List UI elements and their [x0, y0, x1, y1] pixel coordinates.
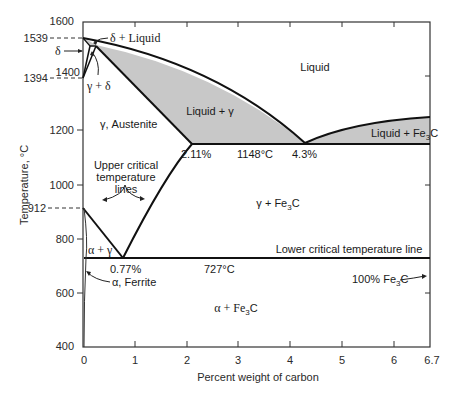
- y-special-1539: 1539: [24, 32, 48, 44]
- y-tick-800: 800: [56, 233, 74, 245]
- label-gamma-fe3c: γ + Fe3C: [256, 197, 299, 212]
- label-2-11-pct: 2.11%: [181, 148, 212, 160]
- x-tick-0: 0: [81, 354, 87, 366]
- label-upper-critical-3: lines: [115, 183, 138, 195]
- y-axis-labels: 1600 1539 1400 1394 1200 1000 912 800 60…: [24, 15, 80, 352]
- y-tick-1200: 1200: [50, 124, 74, 136]
- y-axis-title: Temperature, °C: [18, 145, 30, 225]
- label-4-3-pct: 4.3%: [292, 148, 317, 160]
- x-axis-title: Percent weight of carbon: [197, 371, 319, 383]
- label-upper-critical-2: temperature: [96, 171, 155, 183]
- label-ferrite: α, Ferrite: [112, 276, 156, 288]
- label-727c: 727°C: [204, 263, 235, 275]
- label-upper-critical-1: Upper critical: [94, 159, 158, 171]
- y-special-1394: 1394: [24, 72, 48, 84]
- x-tick-5: 5: [339, 354, 345, 366]
- ferrite-solvus: [84, 208, 87, 347]
- y-tick-600: 600: [56, 287, 74, 299]
- x-axis-labels: 0 1 2 3 4 5 6 6.7: [81, 354, 440, 366]
- label-delta-liquid: δ + Liquid: [110, 31, 160, 45]
- x-tick-1: 1: [132, 354, 138, 366]
- iron-carbon-phase-diagram: 1600 1539 1400 1394 1200 1000 912 800 60…: [0, 0, 449, 394]
- label-100-pct-fe3c: 100% Fe3C: [352, 273, 408, 288]
- region-labels: δ + Liquid δ γ + δ Liquid Liquid + γ Liq…: [55, 31, 438, 317]
- label-lower-critical: Lower critical temperature line: [276, 243, 423, 255]
- label-austenite: γ, Austenite: [100, 118, 157, 130]
- label-0-77-pct: 0.77%: [110, 263, 141, 275]
- label-alpha-fe3c: α + Fe3C: [214, 301, 258, 317]
- label-gamma-delta: γ + δ: [86, 79, 111, 93]
- label-alpha-gamma: α + γ: [88, 243, 113, 257]
- label-delta: δ: [55, 44, 61, 58]
- y-tick-1600: 1600: [50, 15, 74, 27]
- x-tick-6: 6: [391, 354, 397, 366]
- x-tick-3: 3: [235, 354, 241, 366]
- x-tick-4: 4: [287, 354, 293, 366]
- y-tick-400: 400: [56, 340, 74, 352]
- y-tick-1400: 1400: [56, 66, 80, 78]
- label-1148c: 1148°C: [237, 148, 273, 160]
- y-tick-1000: 1000: [50, 179, 74, 191]
- x-tick-2: 2: [184, 354, 190, 366]
- label-liquid-gamma: Liquid + γ: [186, 105, 234, 117]
- label-liquid: Liquid: [300, 61, 329, 73]
- y-special-912: 912: [28, 202, 46, 214]
- x-tick-6-7: 6.7: [424, 354, 439, 366]
